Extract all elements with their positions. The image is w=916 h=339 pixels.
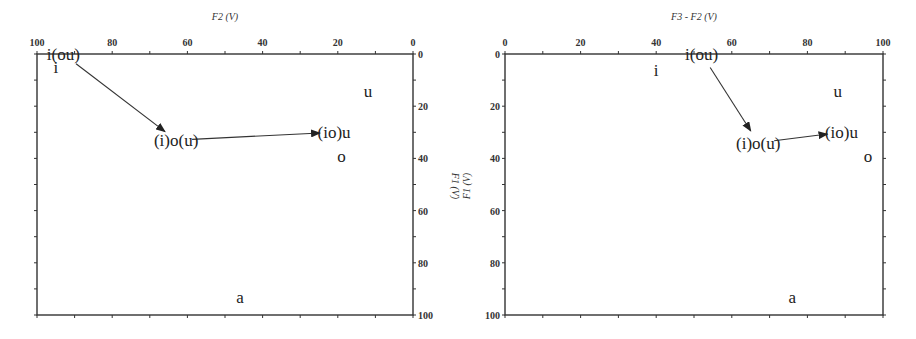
vowel-label: u [833, 82, 842, 101]
x-tick-label: 40 [651, 37, 661, 48]
x-tick-label: 40 [258, 37, 268, 48]
trajectory-point-label: i(ou) [47, 45, 80, 64]
x-tick-label: 80 [107, 37, 117, 48]
x-tick-label: 60 [182, 37, 192, 48]
y-tick-label: 0 [495, 49, 500, 60]
y-tick-label: 60 [490, 206, 500, 217]
vowel-label: a [236, 288, 244, 307]
y-tick-label: 80 [418, 258, 428, 269]
vowel-formant-charts: 100806040200F2 (V)020406080100F1 (V)iuoa… [0, 0, 916, 339]
x-axis-title: F2 (V) [211, 11, 239, 23]
y-tick-label: 40 [418, 153, 428, 164]
x-tick-label: 80 [802, 37, 812, 48]
vowel-label: i [654, 61, 659, 80]
x-tick-label: 100 [876, 37, 891, 48]
trajectory-point-label: (io)u [825, 123, 859, 142]
vowel-label: u [364, 82, 373, 101]
trajectory-arrow [76, 64, 165, 132]
chart-right-f3f2-f1: 020406080100F3 - F2 (V)020406080100F1 (V… [461, 11, 891, 321]
trajectory-point-label: (io)u [318, 123, 352, 142]
trajectory-arrow [192, 133, 320, 139]
y-tick-label: 40 [490, 153, 500, 164]
y-tick-label: 80 [490, 258, 500, 269]
vowel-label: o [337, 147, 346, 166]
x-axis-title: F3 - F2 (V) [670, 11, 717, 23]
vowel-label: a [789, 288, 797, 307]
y-axis-title: F1 (V) [449, 172, 461, 200]
y-tick-label: 20 [418, 101, 428, 112]
x-tick-label: 0 [503, 37, 508, 48]
chart-left-f2-f1: 100806040200F2 (V)020406080100F1 (V)iuoa… [30, 11, 462, 321]
trajectory-arrow [774, 134, 827, 141]
x-tick-label: 0 [411, 37, 416, 48]
y-tick-label: 100 [418, 310, 433, 321]
vowel-label: o [864, 147, 873, 166]
y-axis-title: F1 (V) [461, 172, 473, 200]
trajectory-point-label: i(ou) [685, 45, 718, 64]
y-tick-label: 20 [490, 101, 500, 112]
y-tick-label: 100 [485, 310, 500, 321]
x-tick-label: 60 [727, 37, 737, 48]
x-tick-label: 100 [30, 37, 45, 48]
trajectory-point-label: (i)o(u) [154, 131, 198, 150]
x-tick-label: 20 [576, 37, 586, 48]
plot-frame [37, 54, 413, 315]
y-tick-label: 0 [418, 49, 423, 60]
plot-frame [505, 54, 883, 315]
trajectory-arrow [710, 67, 751, 130]
x-tick-label: 20 [333, 37, 343, 48]
trajectory-point-label: (i)o(u) [736, 134, 780, 153]
y-tick-label: 60 [418, 206, 428, 217]
